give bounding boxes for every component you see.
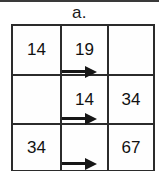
figure-label: a. <box>0 3 159 23</box>
cell-r3c1[interactable]: 34 <box>12 124 61 171</box>
grid-wrapper: 14 19 14 34 34 67 <box>11 24 147 164</box>
lattice-grid: 14 19 14 34 34 67 <box>11 24 155 171</box>
figure-container: a. 14 19 14 34 34 67 <box>0 0 159 171</box>
cell-r1c1[interactable]: 14 <box>12 25 61 75</box>
row-1-arrow-icon <box>85 66 97 78</box>
cell-r2c1[interactable] <box>12 75 61 124</box>
cell-r3c3[interactable]: 67 <box>108 124 154 171</box>
row-2-arrow-icon <box>85 113 97 125</box>
row-3-arrow-icon <box>85 158 97 170</box>
top-rule-divider <box>0 0 159 2</box>
cell-r1c3[interactable] <box>108 25 154 75</box>
cell-r2c3[interactable]: 34 <box>108 75 154 124</box>
table-row: 14 19 <box>12 25 154 75</box>
